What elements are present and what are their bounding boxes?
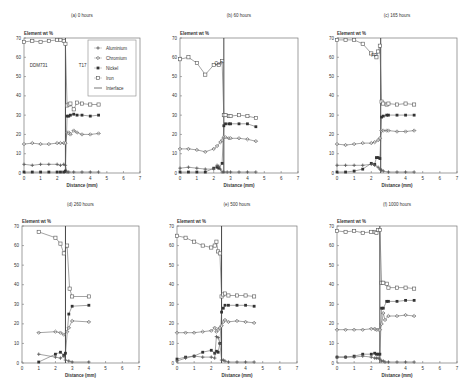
y-tick-label: 40: [16, 93, 22, 98]
iron-square-marker-icon: [361, 42, 364, 45]
iron-square-marker-icon: [387, 102, 390, 105]
x-tick-label: 4: [404, 176, 407, 181]
nickel-square-marker-icon: [89, 115, 92, 118]
nickel-square-marker-icon: [246, 122, 249, 125]
iron-square-marker-icon: [201, 244, 204, 247]
iron-square-marker-icon: [395, 286, 398, 289]
y-tick-label: 50: [169, 263, 175, 268]
iron-square-marker-icon: [184, 236, 187, 239]
x-tick-label: 0: [21, 366, 24, 371]
iron-square-marker-icon: [361, 231, 364, 234]
iron-square-marker-icon: [227, 294, 230, 297]
nickel-square-marker-icon: [396, 300, 399, 303]
iron-square-marker-icon: [72, 108, 75, 111]
x-tick-label: 4: [88, 366, 91, 371]
panel-title: (e) 500 hours: [224, 202, 252, 207]
x-tick-label: 2: [370, 366, 373, 371]
y-tick-label: 30: [169, 302, 175, 307]
nickel-square-marker-icon: [187, 171, 190, 174]
legend-item-label: Nickel: [106, 66, 118, 71]
y-tick-label: 0: [16, 361, 19, 366]
nickel-square-marker-icon: [97, 67, 100, 70]
x-tick-label: 6: [439, 176, 442, 181]
x-tick-label: 0: [336, 176, 339, 181]
nickel-square-marker-icon: [404, 299, 407, 302]
y-tick-label: 60: [16, 55, 22, 60]
iron-square-marker-icon: [22, 40, 25, 43]
y-tick-label: 0: [174, 171, 177, 176]
x-tick-label: 4: [244, 366, 247, 371]
nickel-square-marker-icon: [62, 171, 65, 174]
nickel-square-marker-icon: [31, 171, 34, 174]
iron-square-marker-icon: [253, 295, 256, 298]
y-axis-label: Element wt %: [24, 31, 53, 36]
iron-square-marker-icon: [56, 38, 59, 41]
nickel-square-marker-icon: [224, 304, 227, 307]
iron-square-marker-icon: [378, 44, 381, 47]
aluminium-plus-marker-icon: [67, 359, 70, 362]
y-tick-label: 10: [172, 151, 178, 156]
x-axis-label: Distance (mm): [66, 183, 98, 188]
chart-panel-b: (b) 60 hoursElement wt %0123456701020304…: [172, 13, 300, 188]
x-tick-label: 3: [387, 366, 390, 371]
panel-title: (a) 0 hours: [71, 13, 94, 18]
iron-square-marker-icon: [413, 287, 416, 290]
iron-square-marker-icon: [31, 39, 34, 42]
nickel-square-marker-icon: [76, 114, 79, 117]
iron-square-marker-icon: [382, 281, 385, 284]
iron-square-marker-icon: [246, 115, 249, 118]
y-tick-label: 60: [329, 243, 335, 248]
x-tick-label: 6: [279, 366, 282, 371]
iron-square-marker-icon: [385, 282, 388, 285]
nickel-square-marker-icon: [404, 114, 407, 117]
aluminium-plus-marker-icon: [204, 167, 207, 170]
nickel-square-marker-icon: [220, 311, 223, 314]
series-line-iron: [337, 40, 414, 105]
iron-square-marker-icon: [71, 295, 74, 298]
nickel-square-marker-icon: [221, 162, 224, 165]
plot-frame: [337, 226, 457, 363]
nickel-square-marker-icon: [23, 171, 26, 174]
iron-square-marker-icon: [218, 252, 221, 255]
x-tick-label: 1: [39, 176, 42, 181]
chart-panel-a: (a) 0 hoursElement wt %01234567010203040…: [16, 13, 142, 188]
iron-square-marker-icon: [213, 244, 216, 247]
nickel-square-marker-icon: [210, 349, 213, 352]
nickel-square-marker-icon: [54, 353, 57, 356]
iron-square-marker-icon: [47, 39, 50, 42]
y-axis-label: Element wt %: [337, 219, 366, 224]
figure: (a) 0 hoursElement wt %01234567010203040…: [0, 0, 472, 388]
x-tick-label: 2: [212, 176, 215, 181]
nickel-square-marker-icon: [229, 122, 232, 125]
iron-square-marker-icon: [89, 103, 92, 106]
x-tick-label: 7: [138, 366, 141, 371]
y-tick-label: 50: [16, 74, 22, 79]
x-axis-label: Distance (mm): [65, 373, 97, 378]
x-tick-label: 6: [121, 366, 124, 371]
x-tick-label: 2: [56, 176, 59, 181]
iron-square-marker-icon: [344, 38, 347, 41]
x-tick-label: 0: [176, 366, 179, 371]
x-tick-label: 6: [439, 366, 442, 371]
aluminium-plus-marker-icon: [370, 355, 373, 358]
series-line-iron: [24, 40, 99, 110]
iron-square-marker-icon: [39, 40, 42, 43]
nickel-square-marker-icon: [413, 299, 416, 302]
nickel-square-marker-icon: [382, 307, 385, 310]
y-tick-label: 40: [169, 282, 175, 287]
aluminium-plus-marker-icon: [55, 163, 58, 166]
x-tick-label: 3: [229, 176, 232, 181]
iron-square-marker-icon: [59, 38, 62, 41]
nickel-square-marker-icon: [217, 351, 220, 354]
series-line-nickel: [180, 124, 256, 172]
iron-square-marker-icon: [404, 286, 407, 289]
x-tick-label: 0: [23, 176, 26, 181]
iron-square-marker-icon: [66, 244, 69, 247]
nickel-square-marker-icon: [47, 171, 50, 174]
chart-panel-f: (f) 1000 hoursElement wt %01234567010203…: [329, 202, 459, 378]
nickel-square-marker-icon: [64, 352, 67, 355]
y-tick-label: 20: [172, 132, 178, 137]
iron-square-marker-icon: [404, 102, 407, 105]
nickel-square-marker-icon: [224, 122, 227, 125]
x-tick-label: 3: [72, 176, 75, 181]
